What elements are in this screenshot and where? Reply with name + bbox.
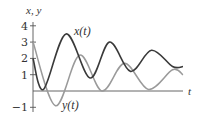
y-ticks: −11234 [12,20,36,115]
y-tick-label: 1 [21,69,28,82]
series-y-line [33,42,183,106]
y-tick-label: 2 [21,52,28,65]
x-axis-title: t [188,85,192,97]
chart: x, y t −11234 x(t) y(t) [0,0,199,123]
y-tick-label: 4 [21,20,28,33]
y-tick-label: −1 [12,101,28,114]
y-tick-label: 3 [21,36,28,49]
series-x-label: x(t) [73,24,91,38]
series-y-label: y(t) [61,98,79,112]
y-axis-title: x, y [25,4,41,16]
